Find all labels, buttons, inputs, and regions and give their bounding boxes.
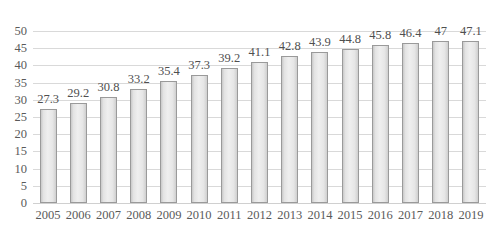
x-axis: 2005200620072008200920102011201220132014… <box>33 208 486 232</box>
bar-slot: 33.2 <box>124 31 154 203</box>
bar-value-label: 47.1 <box>460 25 482 38</box>
bar[interactable] <box>130 89 147 203</box>
bar[interactable] <box>40 109 57 203</box>
bar-value-label: 41.1 <box>249 46 271 59</box>
bar-value-label: 39.2 <box>218 52 240 65</box>
bar-value-label: 30.8 <box>98 81 120 94</box>
bar-slot: 30.8 <box>93 31 123 203</box>
bar[interactable] <box>160 81 177 203</box>
x-tick-label: 2012 <box>247 208 272 222</box>
bar[interactable] <box>281 56 298 203</box>
bar[interactable] <box>70 103 87 203</box>
bar-slot: 47.1 <box>456 31 486 203</box>
bar-value-label: 44.8 <box>339 33 361 46</box>
bar-chart: 05101520253035404550 27.329.230.833.235.… <box>0 0 499 238</box>
bar[interactable] <box>372 45 389 203</box>
bar[interactable] <box>221 68 238 203</box>
bar-value-label: 27.3 <box>37 93 59 106</box>
y-tick-label: 25 <box>15 111 28 124</box>
x-tick-label: 2006 <box>66 208 91 222</box>
y-tick-label: 20 <box>15 128 28 141</box>
y-tick-label: 15 <box>15 145 28 158</box>
bar-slot: 29.2 <box>63 31 93 203</box>
bar-slot: 44.8 <box>335 31 365 203</box>
bar-value-label: 47 <box>434 25 447 38</box>
bar[interactable] <box>251 62 268 203</box>
bar[interactable] <box>311 52 328 203</box>
x-tick-label: 2014 <box>307 208 332 222</box>
x-tick-label: 2013 <box>277 208 302 222</box>
bar-value-label: 43.9 <box>309 36 331 49</box>
bar-slot: 42.8 <box>275 31 305 203</box>
bar[interactable] <box>402 43 419 203</box>
bar[interactable] <box>342 49 359 203</box>
bar-slot: 37.3 <box>184 31 214 203</box>
x-tick-label: 2015 <box>338 208 363 222</box>
y-tick-label: 5 <box>21 180 27 193</box>
bar-value-label: 35.4 <box>158 65 180 78</box>
bar-value-label: 46.4 <box>400 27 422 40</box>
y-tick-label: 45 <box>15 42 28 55</box>
x-tick-label: 2008 <box>126 208 151 222</box>
y-tick-label: 40 <box>15 59 28 72</box>
bar[interactable] <box>191 75 208 203</box>
bar[interactable] <box>462 41 479 203</box>
x-tick-label: 2005 <box>36 208 61 222</box>
bar-slot: 43.9 <box>305 31 335 203</box>
bar-value-label: 29.2 <box>67 87 89 100</box>
bar[interactable] <box>100 97 117 203</box>
bar-value-label: 37.3 <box>188 59 210 72</box>
x-tick-label: 2018 <box>428 208 453 222</box>
bar-slot: 35.4 <box>154 31 184 203</box>
bar[interactable] <box>432 41 449 203</box>
bar-value-label: 33.2 <box>128 73 150 86</box>
y-axis: 05101520253035404550 <box>0 0 33 238</box>
x-tick-label: 2009 <box>156 208 181 222</box>
bar-slot: 41.1 <box>244 31 274 203</box>
x-tick-label: 2010 <box>187 208 212 222</box>
bar-value-label: 42.8 <box>279 40 301 53</box>
bar-slot: 39.2 <box>214 31 244 203</box>
x-tick-label: 2017 <box>398 208 423 222</box>
x-tick-label: 2016 <box>368 208 393 222</box>
gridline-0 <box>33 203 486 204</box>
y-tick-label: 50 <box>15 25 28 38</box>
y-tick-label: 10 <box>15 162 28 175</box>
x-tick-label: 2007 <box>96 208 121 222</box>
x-tick-label: 2019 <box>458 208 483 222</box>
y-tick-label: 35 <box>15 76 28 89</box>
bar-value-label: 45.8 <box>369 29 391 42</box>
x-tick-label: 2011 <box>217 208 242 222</box>
bar-slot: 27.3 <box>33 31 63 203</box>
bars-layer: 27.329.230.833.235.437.339.241.142.843.9… <box>33 31 486 203</box>
bar-slot: 47 <box>426 31 456 203</box>
y-tick-label: 0 <box>21 197 27 210</box>
y-tick-label: 30 <box>15 94 28 107</box>
bar-slot: 46.4 <box>395 31 425 203</box>
bar-slot: 45.8 <box>365 31 395 203</box>
